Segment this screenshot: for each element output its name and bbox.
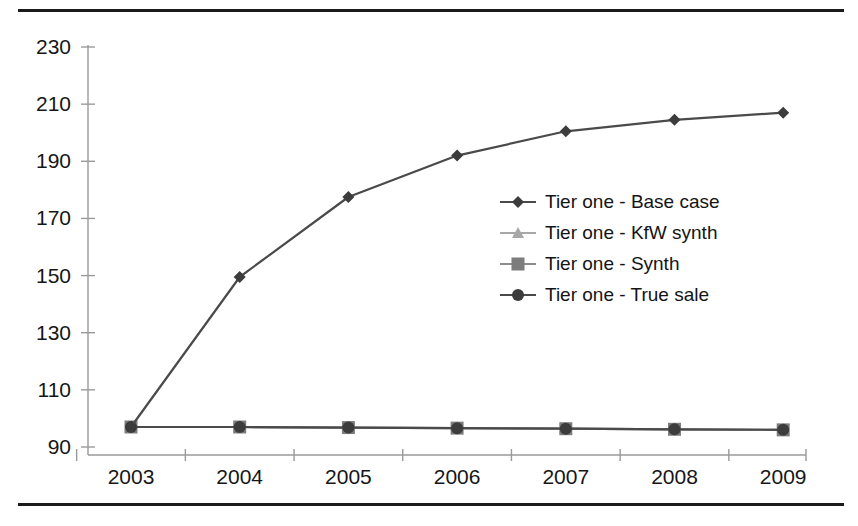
circle-marker [512, 289, 524, 301]
legend-item[interactable]: Tier one - Base case [500, 191, 720, 212]
legend-label: Tier one - Synth [545, 253, 679, 274]
x-axis-tick-label: 2009 [760, 465, 807, 488]
y-axis-tick-label: 190 [36, 149, 71, 172]
circle-marker [234, 421, 246, 433]
plot-canvas: 90110130150170190210230 2003200420052006… [0, 0, 858, 526]
series-layer [125, 107, 790, 437]
diamond-marker [451, 150, 463, 162]
x-axis-tick-label: 2007 [542, 465, 589, 488]
series-3 [125, 421, 789, 436]
x-axis-tick-label: 2003 [108, 465, 155, 488]
y-axis-tick-label: 130 [36, 321, 71, 344]
y-axis-tick-label: 230 [36, 35, 71, 58]
y-axis-tick-label: 90 [48, 435, 71, 458]
diamond-marker [669, 114, 681, 126]
legend-item[interactable]: Tier one - True sale [500, 284, 709, 305]
line-chart: 90110130150170190210230 2003200420052006… [0, 0, 858, 526]
x-axis-tick-label: 2004 [216, 465, 263, 488]
y-axis: 90110130150170190210230 [36, 35, 95, 458]
diamond-marker [512, 196, 524, 208]
legend-label: Tier one - True sale [545, 284, 709, 305]
legend-item[interactable]: Tier one - Synth [500, 253, 679, 274]
diamond-marker [560, 125, 572, 137]
x-axis-tick-label: 2006 [434, 465, 481, 488]
legend-item[interactable]: Tier one - KfW synth [500, 222, 717, 243]
x-axis-tick-label: 2005 [325, 465, 372, 488]
legend-label: Tier one - Base case [545, 191, 720, 212]
x-axis: 2003200420052006200720082009 [77, 449, 807, 488]
x-axis-tick-label: 2008 [651, 465, 698, 488]
square-marker [512, 258, 525, 271]
diamond-marker [777, 107, 789, 119]
chart-legend: Tier one - Base caseTier one - KfW synth… [500, 191, 720, 305]
circle-marker [451, 422, 463, 434]
legend-label: Tier one - KfW synth [545, 222, 717, 243]
y-axis-tick-label: 150 [36, 264, 71, 287]
series-0 [125, 107, 789, 433]
circle-marker [669, 423, 681, 435]
circle-marker [560, 423, 572, 435]
circle-marker [777, 424, 789, 436]
circle-marker [342, 422, 354, 434]
y-axis-tick-label: 210 [36, 92, 71, 115]
y-axis-tick-label: 170 [36, 206, 71, 229]
figure-page: 90110130150170190210230 2003200420052006… [0, 0, 858, 526]
y-axis-tick-label: 110 [38, 378, 71, 401]
